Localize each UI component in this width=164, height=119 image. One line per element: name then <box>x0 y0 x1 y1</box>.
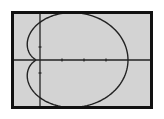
calculator-graph-screen <box>11 11 153 109</box>
polar-graph <box>14 14 150 106</box>
